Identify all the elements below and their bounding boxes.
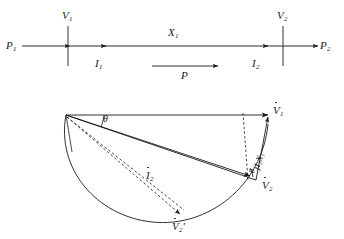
label-power-flow: P bbox=[181, 70, 188, 81]
label-v1: V1 bbox=[62, 10, 72, 23]
label-p1: P1 bbox=[6, 40, 16, 53]
phasor-v2 bbox=[66, 115, 256, 180]
figure-canvas: P1 P2 V1 V2 I1 I2 X1 P V1 V2 V2′ I2 θ θ … bbox=[0, 0, 344, 239]
label-i1: I1 bbox=[95, 58, 102, 71]
label-theta-upper: θ bbox=[103, 114, 108, 124]
label-v2: V2 bbox=[277, 10, 287, 23]
dashed-construction-line bbox=[67, 117, 184, 210]
label-phasor-v2-prime: V2′ bbox=[172, 221, 185, 234]
phasor-diagram-group bbox=[64, 113, 268, 223]
dashed-line-to-v2-prime bbox=[67, 117, 180, 214]
voltage-locus-arc bbox=[64, 115, 268, 223]
label-i2: I2 bbox=[252, 58, 259, 71]
label-phasor-v1: V1 bbox=[273, 105, 283, 118]
label-phasor-i2: I2 bbox=[146, 170, 153, 183]
label-phasor-v2: V2 bbox=[262, 180, 272, 193]
label-p2: P2 bbox=[320, 40, 330, 53]
phasor-reactance-drop bbox=[256, 117, 268, 180]
label-x1: X1 bbox=[168, 27, 178, 40]
